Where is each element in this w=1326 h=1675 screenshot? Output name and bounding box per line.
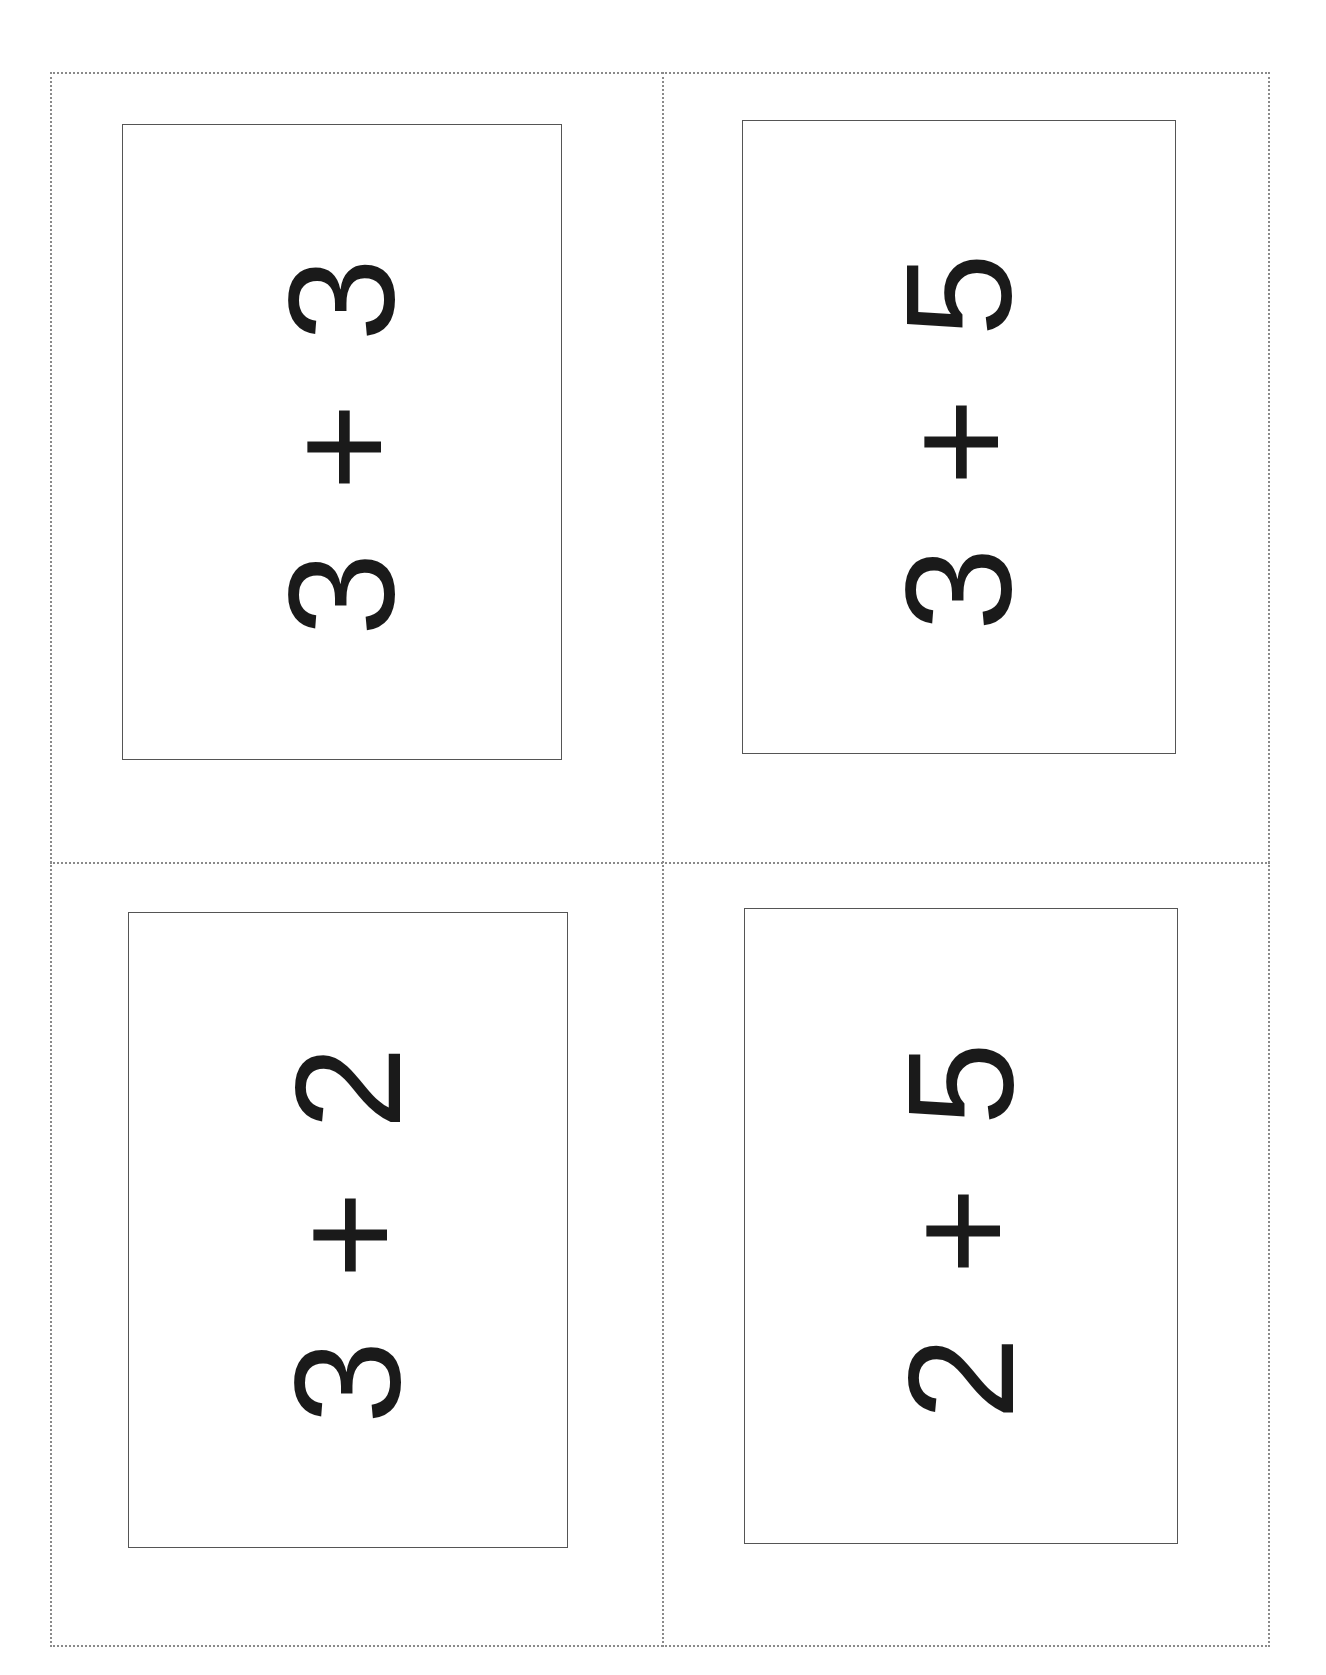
- card-expression: 3 + 3: [267, 248, 417, 636]
- flashcard-bottom-left: 3 + 2: [128, 912, 568, 1548]
- vertical-cut-line: [662, 72, 664, 1647]
- flashcard-sheet: 3 + 3 3 + 5 3 + 2 2 + 5: [50, 72, 1270, 1647]
- flashcard-top-left: 3 + 3: [122, 124, 562, 760]
- flashcard-top-right: 3 + 5: [742, 120, 1176, 754]
- card-expression: 2 + 5: [886, 1032, 1036, 1420]
- horizontal-cut-line: [50, 862, 1270, 864]
- card-expression: 3 + 5: [884, 243, 1034, 631]
- card-expression: 3 + 2: [273, 1036, 423, 1424]
- flashcard-bottom-right: 2 + 5: [744, 908, 1178, 1544]
